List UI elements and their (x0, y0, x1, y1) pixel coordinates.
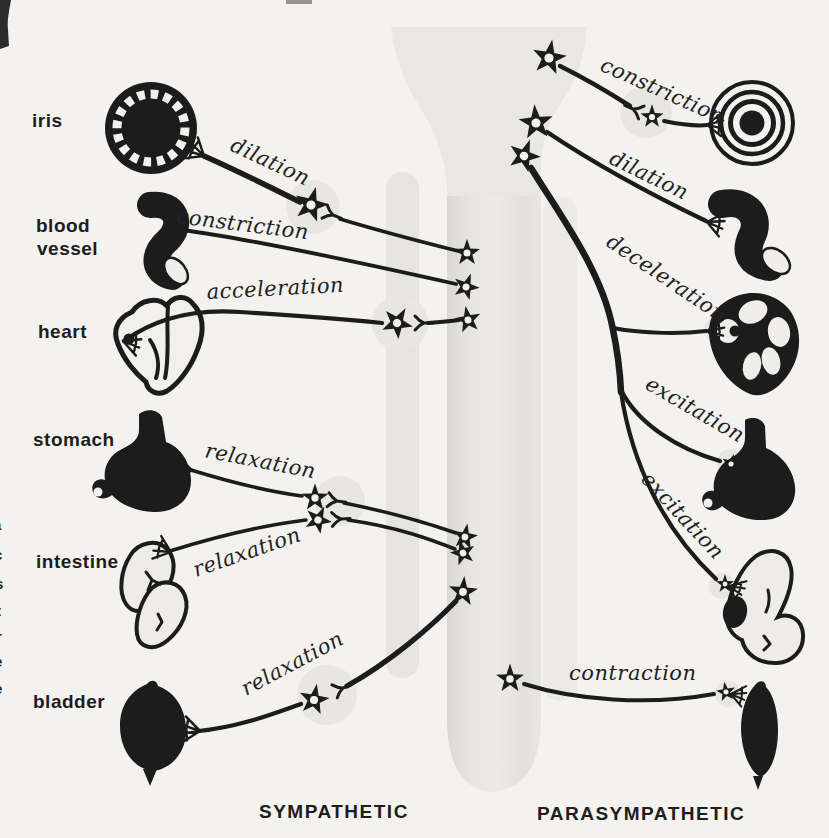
autonomic-nervous-system-diagram: f a c s t r e e (0, 0, 829, 838)
label-iris: iris (32, 110, 63, 131)
sympathetic-chain-column (386, 172, 419, 678)
label-intestine: intestine (36, 551, 119, 572)
edge-fragment: e (0, 653, 2, 670)
diagram-canvas: f a c s t r e e (0, 0, 829, 838)
edge-fragment: c (0, 546, 2, 563)
iris-sympathetic-shape (105, 82, 197, 174)
title-sympathetic: SYMPATHETIC (259, 801, 409, 822)
scan-smudge-top (286, 0, 312, 4)
label-blood: blood (36, 215, 90, 236)
edge-fragment: e (0, 680, 2, 697)
label-vessel: vessel (37, 238, 98, 259)
label-heart: heart (38, 321, 87, 342)
title-parasympathetic: PARASYMPATHETIC (537, 803, 745, 824)
edge-fragment: r (0, 628, 2, 645)
edge-fragment: t (0, 602, 1, 619)
edge-fragment: s (0, 575, 3, 592)
effect-parasympathetic-bladder: contraction (569, 661, 697, 685)
spinal-cord-right-band (543, 196, 577, 701)
label-bladder: bladder (33, 691, 105, 712)
label-stomach: stomach (33, 429, 115, 450)
